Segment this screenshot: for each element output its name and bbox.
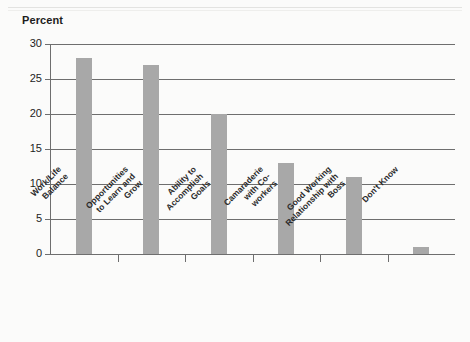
bar-chart-figure: Percent 302520151050 Work/LifeBalanceOpp… xyxy=(0,0,470,342)
x-axis-category-labels: Work/LifeBalanceOpportunitiesto Learn an… xyxy=(50,256,470,342)
y-tick-label-25: 25 xyxy=(30,72,42,84)
gridline-15 xyxy=(50,149,455,150)
y-tick-label-20: 20 xyxy=(30,107,42,119)
bar xyxy=(413,247,429,254)
y-tick-mark-20 xyxy=(45,114,50,115)
gridline-20 xyxy=(50,114,455,115)
y-tick-mark-15 xyxy=(45,149,50,150)
gridline-25 xyxy=(50,79,455,80)
top-divider-rule xyxy=(8,7,462,8)
gridline-30 xyxy=(50,44,455,45)
top-divider-rule-secondary xyxy=(8,10,462,11)
y-tick-label-15: 15 xyxy=(30,142,42,154)
y-tick-label-30: 30 xyxy=(30,37,42,49)
y-tick-mark-25 xyxy=(45,79,50,80)
y-tick-label-5: 5 xyxy=(36,212,42,224)
plot-area xyxy=(50,44,455,254)
y-tick-mark-5 xyxy=(45,219,50,220)
gridline-5 xyxy=(50,219,455,220)
y-axis-title: Percent xyxy=(22,14,63,26)
y-tick-mark-30 xyxy=(45,44,50,45)
